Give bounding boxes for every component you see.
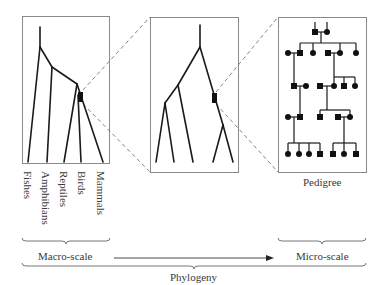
taxon-label-birds: Birds xyxy=(76,171,88,195)
pedigree-symbols xyxy=(285,29,359,157)
taxon-label-amphibians: Amphibians xyxy=(40,171,52,225)
scale-arrow xyxy=(114,255,274,261)
zoom-lines-1 xyxy=(83,17,150,172)
phylogeny-brace xyxy=(22,263,366,269)
zoom-lines-2 xyxy=(216,17,278,172)
micro-brace xyxy=(278,238,366,244)
taxon-label-fishes: Fishes xyxy=(22,171,34,199)
taxon-label-mammals: Mammals xyxy=(95,171,107,215)
macro-brace xyxy=(22,238,110,244)
macro-tree-marker xyxy=(78,92,83,102)
zoomed-tree-box xyxy=(151,18,239,173)
zoomed-tree xyxy=(156,25,233,162)
phylogeny-label: Phylogeny xyxy=(170,271,217,283)
macro-tree xyxy=(28,27,103,162)
phylogeny-diagram xyxy=(0,0,388,285)
micro-scale-label: Micro-scale xyxy=(296,250,349,262)
taxon-label-reptiles: Reptiles xyxy=(58,171,70,207)
macro-scale-label: Macro-scale xyxy=(38,250,92,262)
pedigree-box xyxy=(279,18,367,173)
pedigree-label: Pedigree xyxy=(303,176,341,188)
zoomed-tree-marker xyxy=(212,93,217,103)
